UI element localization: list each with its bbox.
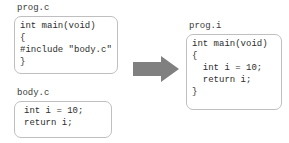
- file-group-progc: prog.c int main(void) { #include "body.c…: [14, 3, 118, 74]
- file-group-bodyc: body.c int i = 10; return i;: [14, 88, 112, 138]
- code-line: }: [20, 56, 112, 68]
- code-line: int i = 10;: [192, 62, 276, 74]
- code-line: }: [192, 86, 276, 98]
- code-box-bodyc: int i = 10; return i;: [14, 101, 112, 138]
- file-label-progc: prog.c: [17, 3, 118, 14]
- code-line: int main(void): [20, 20, 112, 32]
- code-line: return i;: [192, 74, 276, 86]
- code-box-progi: int main(void) { int i = 10; return i; }: [186, 34, 282, 110]
- code-box-progc: int main(void) { #include "body.c" }: [14, 16, 118, 74]
- file-label-progi: prog.i: [189, 21, 282, 32]
- code-line: int i = 10;: [24, 105, 106, 117]
- preprocessor-diagram: prog.c int main(void) { #include "body.c…: [0, 0, 289, 143]
- code-line: #include "body.c": [20, 44, 112, 56]
- file-group-progi: prog.i int main(void) { int i = 10; retu…: [186, 21, 282, 110]
- code-line: {: [20, 32, 112, 44]
- code-line: int main(void): [192, 38, 276, 50]
- code-line: return i;: [24, 117, 106, 129]
- code-line: {: [192, 50, 276, 62]
- file-label-bodyc: body.c: [17, 88, 112, 99]
- right-arrow-icon: [133, 56, 179, 82]
